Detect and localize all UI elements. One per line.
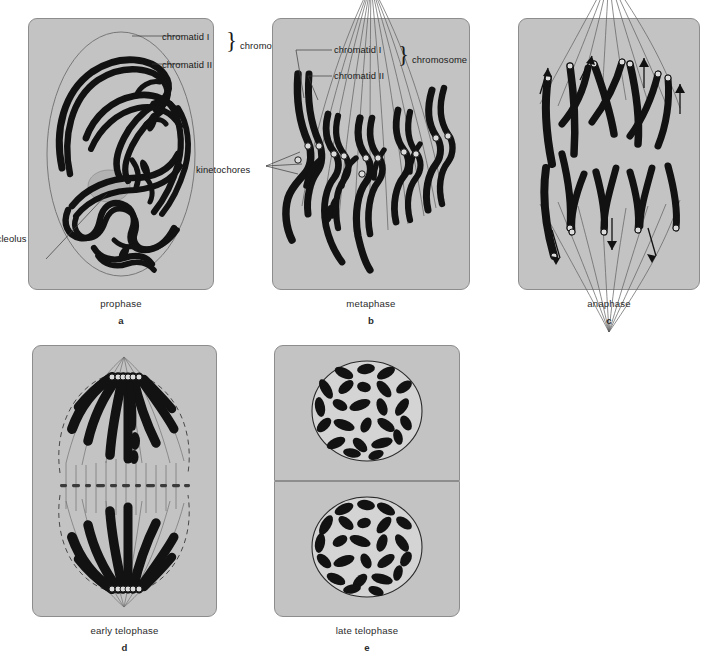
panel-anaphase: anaphase c	[518, 18, 700, 290]
cell-plate-vesicles	[60, 484, 190, 487]
brace-chromosome-b: }	[398, 43, 409, 66]
label-chromosome-b: chromosome	[412, 54, 467, 65]
early-telophase-illustration	[32, 345, 217, 617]
panel-late-telophase: late telophase e	[274, 345, 460, 617]
caption-letter-b: b	[272, 315, 470, 326]
label-nucleolus: nucleolus	[0, 233, 27, 244]
label-chromatid-i-b: chromatid I	[334, 44, 381, 55]
caption-letter-a: a	[28, 315, 214, 326]
anaphase-illustration	[518, 18, 700, 290]
panel-metaphase: chromatid I chromatid II } chromosome ki…	[272, 18, 470, 290]
late-telophase-illustration	[274, 345, 460, 617]
daughter-nucleus-lower	[312, 497, 422, 598]
mitosis-figure: chromatid I chromatid II } chromosome nu…	[0, 0, 715, 671]
caption-metaphase: metaphase	[272, 298, 470, 309]
caption-letter-e: e	[274, 642, 460, 653]
caption-early-telophase: early telophase	[32, 625, 217, 636]
panel-prophase: chromatid I chromatid II } chromosome nu…	[28, 18, 214, 290]
caption-late-telophase: late telophase	[274, 625, 460, 636]
daughter-nucleus-upper	[312, 361, 422, 462]
caption-anaphase: anaphase	[518, 298, 700, 309]
caption-letter-c: c	[518, 315, 700, 326]
label-kinetochores: kinetochores	[196, 164, 250, 175]
caption-letter-d: d	[32, 642, 217, 653]
caption-prophase: prophase	[28, 298, 214, 309]
label-chromatid-ii-b: chromatid II	[334, 70, 384, 81]
panel-early-telophase: early telophase d	[32, 345, 217, 617]
